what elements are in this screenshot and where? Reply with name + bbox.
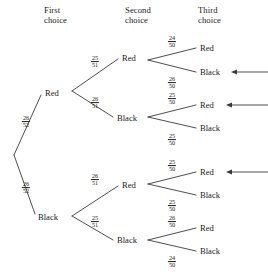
- fraction-second-red-from-black: 26 51: [91, 173, 99, 187]
- branch-br-to-red: [148, 172, 196, 184]
- fraction-third-red-rr: 24 50: [168, 35, 176, 49]
- tree-branch-lines: [0, 0, 268, 274]
- branch-bb-to-red: [148, 228, 196, 240]
- fraction-second-red-from-red: 25 51: [91, 55, 99, 69]
- fraction-third-black-rr: 26 50: [168, 76, 176, 90]
- branch-rb-to-black: [148, 117, 196, 128]
- arrow-black-rr-head: [231, 69, 237, 74]
- fraction-denominator: 52: [22, 122, 30, 129]
- fraction-denominator: 51: [91, 103, 99, 110]
- branch-rr-to-black: [148, 60, 196, 72]
- node-first-black: Black: [38, 213, 58, 222]
- fraction-third-black-bb: 24 50: [168, 255, 176, 269]
- arrow-red-br-head: [226, 169, 232, 174]
- branch-br-to-black: [148, 184, 196, 195]
- fraction-denominator: 50: [168, 140, 176, 147]
- branch-rb-to-red: [148, 105, 196, 117]
- node-second-red-from-red: Red: [122, 54, 136, 63]
- node-third-black-bb: Black: [200, 247, 220, 256]
- node-second-red-from-black: Red: [122, 181, 136, 190]
- fraction-denominator: 50: [168, 99, 176, 106]
- header-third-choice: Third choice: [198, 5, 221, 26]
- node-third-black-br: Black: [200, 191, 220, 200]
- fraction-second-black-from-black: 25 51: [91, 215, 99, 229]
- fraction-denominator: 51: [91, 180, 99, 187]
- fraction-third-black-rb: 25 50: [168, 133, 176, 147]
- node-third-red-rr: Red: [200, 44, 214, 53]
- arrow-red-rb-head: [226, 102, 232, 107]
- fraction-first-red: 26 52: [22, 115, 30, 129]
- node-second-black-from-black: Black: [117, 236, 137, 245]
- fraction-denominator: 51: [91, 62, 99, 69]
- fraction-third-red-rb: 25 50: [168, 92, 176, 106]
- node-third-red-bb: Red: [200, 224, 214, 233]
- header-second-choice: Second choice: [125, 5, 151, 26]
- branch-black-to-red: [72, 186, 118, 216]
- fraction-third-black-br: 25 50: [168, 199, 176, 213]
- fraction-denominator: 50: [168, 83, 176, 90]
- node-second-black-from-red: Black: [117, 114, 137, 123]
- fraction-second-black-from-red: 26 51: [91, 96, 99, 110]
- fraction-denominator: 51: [91, 222, 99, 229]
- node-third-black-rr: Black: [200, 68, 220, 77]
- fraction-denominator: 50: [168, 222, 176, 229]
- fraction-third-red-bb: 26 50: [168, 215, 176, 229]
- branch-rr-to-red: [148, 48, 196, 60]
- probability-tree-diagram: First choice Second choice Third choice …: [0, 0, 268, 274]
- node-third-red-rb: Red: [200, 101, 214, 110]
- node-first-red: Red: [45, 89, 59, 98]
- node-third-red-br: Red: [200, 168, 214, 177]
- fraction-third-red-br: 25 50: [168, 159, 176, 173]
- fraction-denominator: 52: [22, 188, 30, 195]
- branch-bb-to-black: [148, 240, 196, 251]
- fraction-first-black: 26 52: [22, 181, 30, 195]
- fraction-denominator: 50: [168, 206, 176, 213]
- fraction-denominator: 50: [168, 166, 176, 173]
- fraction-denominator: 50: [168, 42, 176, 49]
- node-third-black-rb: Black: [200, 124, 220, 133]
- fraction-denominator: 50: [168, 262, 176, 269]
- header-first-choice: First choice: [44, 5, 67, 26]
